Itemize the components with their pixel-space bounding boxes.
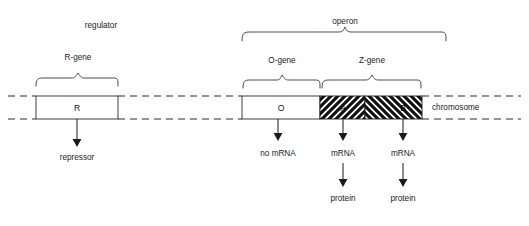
gene-box-o: O [242, 96, 320, 119]
r-gene-label: R-gene [65, 53, 92, 62]
gene-box-b-label: B [400, 103, 406, 113]
arrow-mrna-a [339, 119, 348, 141]
diagram-canvas: regulator operon R-gene O-gene Z-gene [0, 0, 529, 226]
operon-diagram: regulator operon R-gene O-gene Z-gene [0, 0, 529, 226]
gene-box-a-label: A [340, 103, 346, 113]
regulator-label: regulator [85, 21, 118, 30]
gene-box-o-label: O [278, 103, 285, 113]
arrow-repressor [73, 119, 82, 147]
no-mrna-label: no mRNA [260, 149, 296, 158]
gene-box-r-label: R [74, 103, 80, 113]
protein-a-label: protein [330, 194, 355, 203]
gene-box-r: R [36, 96, 118, 119]
r-gene-brace [36, 73, 118, 86]
o-gene-brace [243, 75, 320, 88]
repressor-label: repressor [60, 153, 95, 162]
mrna-a-label: mRNA [331, 149, 356, 158]
z-gene-label: Z-gene [359, 56, 385, 65]
gene-box-a: A [320, 96, 365, 119]
operon-brace [242, 27, 446, 41]
protein-b-label: protein [390, 194, 415, 203]
arrow-no-mrna [274, 119, 283, 141]
arrow-protein-b [399, 163, 408, 187]
z-gene-brace [322, 75, 421, 88]
gene-box-b: B [365, 96, 422, 119]
arrow-protein-a [339, 163, 348, 187]
operon-label: operon [332, 17, 358, 26]
o-gene-label: O-gene [268, 56, 296, 65]
chromosome-label: chromosome [432, 103, 480, 112]
mrna-b-label: mRNA [391, 149, 416, 158]
arrow-mrna-b [399, 119, 408, 141]
